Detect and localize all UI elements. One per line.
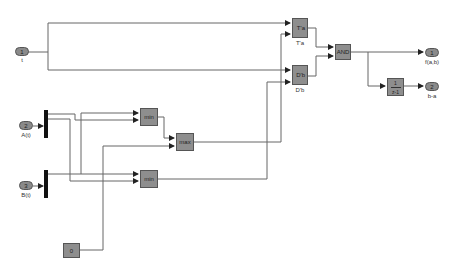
outport-label: f(a,b) bbox=[420, 59, 444, 65]
demux-a[interactable] bbox=[44, 110, 48, 138]
db-subsystem[interactable]: D'b bbox=[292, 65, 308, 85]
demux-b[interactable] bbox=[44, 170, 48, 198]
inport-t[interactable]: 1 bbox=[15, 47, 29, 56]
min-block-1[interactable]: min bbox=[140, 108, 158, 126]
outport-ba[interactable]: 2 bbox=[425, 82, 439, 91]
inport-label: B(t) bbox=[16, 192, 36, 198]
outport-label: b-a bbox=[420, 93, 444, 99]
outport-number: 2 bbox=[430, 84, 433, 90]
block-text: D'b bbox=[296, 72, 305, 78]
inport-label: A(t) bbox=[16, 132, 36, 138]
inport-b[interactable]: 3 bbox=[19, 181, 33, 190]
inport-number: 1 bbox=[20, 49, 23, 55]
block-text: AND bbox=[337, 49, 350, 55]
block-text: max bbox=[179, 139, 190, 145]
inport-label: t bbox=[15, 57, 29, 63]
signal-wires bbox=[0, 0, 458, 273]
min-block-2[interactable]: min bbox=[140, 170, 158, 188]
tf-denominator: z-1 bbox=[392, 89, 399, 95]
block-text: T'a bbox=[297, 25, 305, 31]
block-text: 0 bbox=[70, 248, 73, 254]
outport-number: 1 bbox=[430, 50, 433, 56]
tf-numerator: 1 bbox=[394, 80, 397, 86]
inport-number: 3 bbox=[24, 183, 27, 189]
inport-a[interactable]: 2 bbox=[19, 121, 33, 130]
ta-label: T'a bbox=[292, 40, 308, 46]
transfer-function-block[interactable]: 1 z-1 bbox=[387, 78, 404, 96]
inport-number: 2 bbox=[24, 123, 27, 129]
ta-subsystem[interactable]: T'a bbox=[292, 18, 308, 38]
block-text: min bbox=[144, 114, 154, 120]
constant-block[interactable]: 0 bbox=[63, 243, 80, 258]
block-text: min bbox=[144, 176, 154, 182]
and-block[interactable]: AND bbox=[335, 44, 351, 60]
outport-f[interactable]: 1 bbox=[425, 48, 439, 57]
max-block[interactable]: max bbox=[176, 133, 194, 151]
db-label: D'b bbox=[292, 87, 308, 93]
